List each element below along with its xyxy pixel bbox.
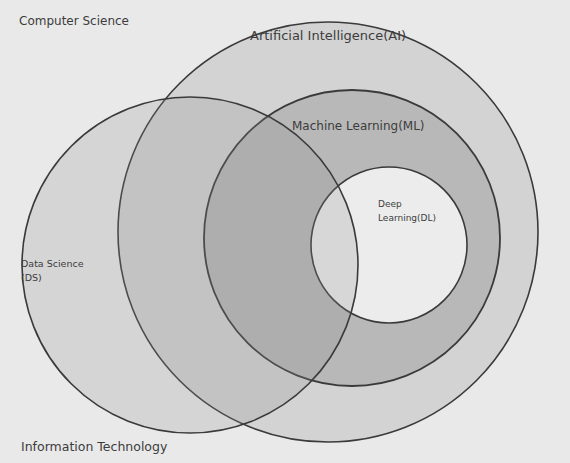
venn-diagram: Computer Science Artificial Intelligence… (0, 0, 570, 463)
ml-label: Machine Learning(ML) (292, 119, 425, 133)
computer-science-label: Computer Science (19, 14, 129, 28)
information-technology-label: Information Technology (21, 439, 168, 454)
ai-label: Artificial Intelligence(AI) (250, 28, 406, 43)
ds-label-line1: Data Science (21, 258, 84, 269)
dl-label-line2: Learning(DL) (378, 213, 436, 223)
dl-label-line1: Deep (378, 199, 402, 209)
ds-label-line2: (DS) (21, 272, 42, 283)
